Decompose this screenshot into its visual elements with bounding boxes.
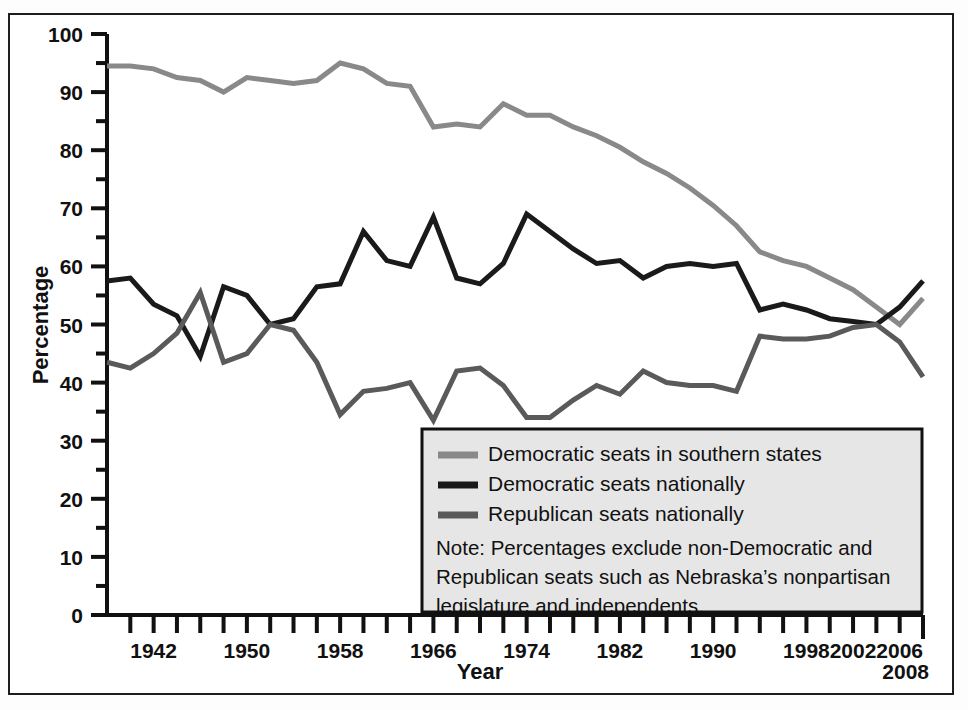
figure-outer-frame: 0102030405060708090100 19421950195819661… bbox=[8, 13, 954, 695]
y-axis-tick-label: 10 bbox=[60, 546, 83, 569]
line-chart: 0102030405060708090100 19421950195819661… bbox=[10, 15, 952, 693]
x-axis-tick-label: 1950 bbox=[224, 639, 271, 662]
x-axis-tick-label: 1974 bbox=[503, 639, 550, 662]
x-axis-tick-label: 2008 bbox=[882, 660, 929, 683]
y-axis-tick-label: 40 bbox=[60, 372, 83, 395]
x-axis-tick-label: 1966 bbox=[410, 639, 457, 662]
x-axis-tick-label: 1998 bbox=[783, 639, 830, 662]
y-axis-tick-label: 70 bbox=[60, 197, 83, 220]
y-axis-tick-label: 60 bbox=[60, 255, 83, 278]
y-axis-tick-label: 0 bbox=[71, 604, 83, 627]
y-axis-tick-label: 100 bbox=[48, 23, 83, 46]
x-axis-tick-label: 1942 bbox=[130, 639, 177, 662]
x-axis-tick-label: 2002 bbox=[830, 639, 877, 662]
legend-note-line: legislature and independents. bbox=[436, 594, 704, 617]
chart-legend: Democratic seats in southern statesDemoc… bbox=[422, 429, 922, 617]
y-axis-tick-label: 80 bbox=[60, 139, 83, 162]
x-axis-tick-label: 1958 bbox=[317, 639, 364, 662]
legend-label: Democratic seats in southern states bbox=[488, 442, 822, 465]
figure-root: 0102030405060708090100 19421950195819661… bbox=[0, 0, 968, 710]
y-axis-tick-label: 50 bbox=[60, 314, 83, 337]
y-axis-tick-label: 90 bbox=[60, 81, 83, 104]
legend-label: Democratic seats nationally bbox=[488, 472, 745, 495]
y-axis-tick-label: 30 bbox=[60, 430, 83, 453]
x-axis-tick-label: 1982 bbox=[597, 639, 644, 662]
x-axis-title: Year bbox=[457, 659, 504, 684]
legend-label: Republican seats nationally bbox=[488, 502, 744, 525]
x-axis-tick-label: 2006 bbox=[876, 639, 923, 662]
y-axis-title: Percentage bbox=[28, 266, 53, 385]
legend-note-line: Note: Percentages exclude non-Democratic… bbox=[436, 536, 872, 559]
x-axis-tick-label: 1990 bbox=[690, 639, 737, 662]
y-axis-tick-label: 20 bbox=[60, 488, 83, 511]
legend-note-line: Republican seats such as Nebraska’s nonp… bbox=[436, 565, 890, 588]
